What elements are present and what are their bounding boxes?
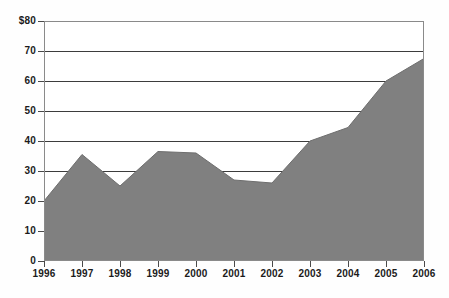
x-axis: 1996199719981999200020012002200320042005… [0, 268, 449, 288]
plot-area [44, 21, 424, 261]
x-tick-mark [386, 261, 387, 267]
x-tick-label: 2006 [412, 268, 435, 280]
x-tick-label: 2001 [222, 268, 245, 280]
x-tick-label: 1996 [32, 268, 55, 280]
y-tick-label: 70 [24, 46, 36, 56]
plot-svg [44, 21, 424, 261]
x-tick-label: 2005 [374, 268, 397, 280]
x-tick-label: 1997 [70, 268, 93, 280]
y-tick-label: 20 [24, 196, 36, 206]
x-tick-mark [120, 261, 121, 267]
area-chart: 010203040506070$80 199619971998199920002… [0, 0, 449, 298]
x-tick-label: 2004 [336, 268, 359, 280]
y-tick-label: 10 [24, 226, 36, 236]
x-tick-label: 1998 [108, 268, 131, 280]
x-tick-mark [158, 261, 159, 267]
x-tick-label: 1999 [146, 268, 169, 280]
y-tick-label: $80 [19, 16, 36, 26]
x-tick-mark [348, 261, 349, 267]
y-tick-label: 0 [30, 256, 36, 266]
x-tick-mark [44, 261, 45, 267]
y-axis: 010203040506070$80 [0, 0, 42, 298]
y-tick-label: 60 [24, 76, 36, 86]
y-tick-label: 50 [24, 106, 36, 116]
y-tick-label: 30 [24, 166, 36, 176]
x-tick-label: 2003 [298, 268, 321, 280]
x-tick-mark [82, 261, 83, 267]
x-tick-label: 2000 [184, 268, 207, 280]
x-tick-mark [234, 261, 235, 267]
x-tick-label: 2002 [260, 268, 283, 280]
x-tick-mark [310, 261, 311, 267]
x-tick-mark [272, 261, 273, 267]
y-tick-label: 40 [24, 136, 36, 146]
x-tick-mark [424, 261, 425, 267]
x-tick-mark [196, 261, 197, 267]
